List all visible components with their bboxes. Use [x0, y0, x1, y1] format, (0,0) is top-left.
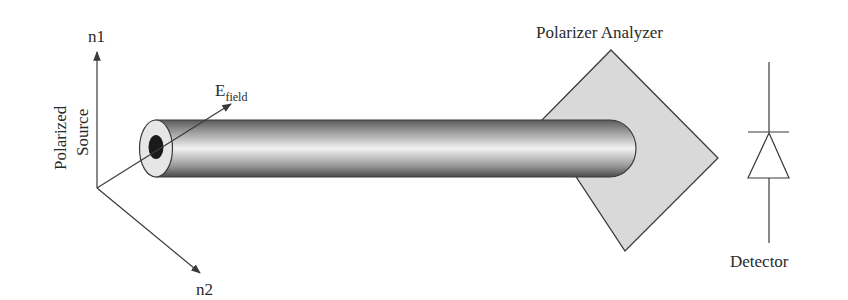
source-label: Polarized Source: [51, 105, 92, 170]
optical-fiber: [140, 120, 637, 177]
diagram-canvas: n1 n2 Efield Polarized Source Polarizer …: [0, 0, 848, 300]
analyzer-label: Polarizer Analyzer: [536, 23, 663, 42]
svg-text:Polarized: Polarized: [51, 105, 70, 170]
efield-label: Efield: [215, 81, 247, 104]
fiber-core: [149, 135, 164, 159]
n2-label: n2: [196, 280, 213, 299]
detector-diode-icon: [748, 62, 789, 243]
svg-text:Source: Source: [73, 109, 92, 156]
n1-label: n1: [88, 27, 105, 46]
n2-axis-arrow: [97, 188, 200, 273]
detector-label: Detector: [730, 252, 789, 271]
